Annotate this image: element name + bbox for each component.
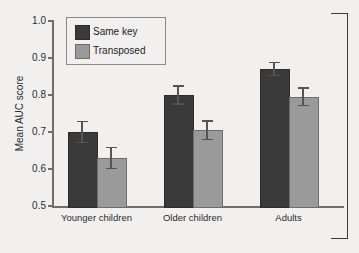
legend-swatch-transposed — [75, 44, 90, 59]
y-tick-label: 1.0 — [6, 16, 46, 26]
legend-label-same-key: Same key — [93, 26, 137, 38]
error-bar-cap-lower — [77, 142, 88, 143]
y-tick-mark — [48, 168, 52, 170]
bar-chart-figure: Mean AUC score 1.00.90.80.70.60.5 Younge… — [0, 0, 359, 253]
y-axis-line — [52, 20, 54, 207]
error-bar-cap-upper — [173, 85, 184, 86]
error-bar-line — [273, 62, 274, 75]
bar-same-key — [68, 132, 98, 208]
error-bar-line — [206, 121, 207, 140]
y-tick-mark — [48, 94, 52, 96]
y-tick-label: 0.8 — [6, 90, 46, 100]
bar-same-key — [260, 69, 290, 208]
y-tick-label: 0.7 — [6, 127, 46, 137]
legend-label-transposed: Transposed — [93, 45, 145, 57]
error-bar-line — [302, 88, 303, 106]
y-tick-mark — [48, 205, 52, 207]
bar-transposed — [193, 130, 223, 208]
legend-swatch-same-key — [75, 25, 90, 40]
error-bar-cap-lower — [269, 75, 280, 76]
error-bar-cap-upper — [298, 87, 309, 88]
error-bar-cap-lower — [298, 105, 309, 106]
error-bar-cap-upper — [202, 120, 213, 121]
error-bar-line — [177, 86, 178, 104]
y-tick-mark — [48, 131, 52, 133]
error-bar-line — [110, 148, 111, 169]
bar-transposed — [289, 97, 319, 208]
y-tick-label: 0.5 — [6, 201, 46, 211]
y-tick-mark — [48, 57, 52, 59]
error-bar-cap-upper — [77, 121, 88, 122]
error-bar-cap-upper — [106, 147, 117, 148]
error-bar-line — [81, 122, 82, 143]
error-bar-cap-lower — [106, 168, 117, 169]
bar-same-key — [164, 95, 194, 208]
y-axis-title: Mean AUC score — [14, 59, 25, 169]
bar-transposed — [97, 158, 127, 208]
chart-legend: Same key Transposed — [66, 17, 166, 65]
right-edge-bracket-marker — [331, 13, 348, 239]
y-tick-label: 0.6 — [6, 164, 46, 174]
y-tick-mark — [48, 20, 52, 22]
error-bar-cap-lower — [202, 139, 213, 140]
error-bar-cap-lower — [173, 103, 184, 104]
y-tick-label: 0.9 — [6, 53, 46, 63]
error-bar-cap-upper — [269, 62, 280, 63]
